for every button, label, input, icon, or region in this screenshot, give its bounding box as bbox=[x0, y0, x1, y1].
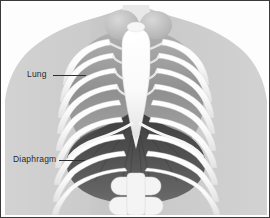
figure-canvas: Lung Diaphragm bbox=[5, 5, 267, 215]
lung-leader-line bbox=[53, 75, 86, 76]
lumbar-vertebrae bbox=[109, 173, 163, 215]
label-lung: Lung bbox=[27, 70, 47, 79]
diaphragm-leader-line bbox=[59, 160, 85, 161]
anatomy-illustration bbox=[5, 5, 267, 215]
label-diaphragm: Diaphragm bbox=[13, 155, 56, 164]
figure-frame: Lung Diaphragm bbox=[0, 0, 270, 218]
